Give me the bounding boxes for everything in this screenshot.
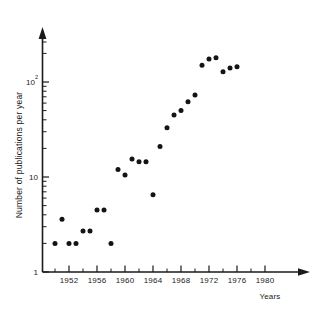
data-point [207,56,212,61]
x-tick-label-1980: 1980 [256,276,275,285]
x-tick-label-1968: 1968 [172,276,191,285]
data-point [67,241,72,246]
x-tick-label-1960: 1960 [116,276,135,285]
data-point [53,241,58,246]
data-point [200,63,205,68]
x-tick-label-1952: 1952 [60,276,79,285]
data-point [158,144,163,149]
data-point [235,64,240,69]
data-point [116,167,121,172]
x-tick-label-1956: 1956 [88,276,107,285]
data-point [123,172,128,177]
data-point [228,66,233,71]
data-point [137,159,142,164]
data-point [221,69,226,74]
y-tick-label-1: 1 [34,268,39,277]
data-point [186,99,191,104]
data-point [193,92,198,97]
x-tick-label-1972: 1972 [200,276,219,285]
y-axis-title: Number of publications per year [14,92,24,219]
data-point [109,241,114,246]
data-point [102,207,107,212]
y-tick-label-10: 10 [29,173,38,182]
data-point [60,217,65,222]
x-tick-label-1976: 1976 [228,276,247,285]
data-point [130,156,135,161]
data-point [144,159,149,164]
data-point [88,229,93,234]
chart-background [0,0,319,319]
data-point [81,229,86,234]
publications-per-year-chart: 1 10 102 Number of publications per year [0,0,319,319]
data-point [165,125,170,130]
data-point [95,207,100,212]
data-point [151,192,156,197]
x-axis-title: Years [259,292,280,301]
data-point [74,241,79,246]
y-tick-label-100-exponent: 2 [35,74,38,80]
data-point [214,55,219,60]
data-point [179,108,184,113]
data-point [172,112,177,117]
x-tick-label-1964: 1964 [144,276,163,285]
chart-svg: 1 10 102 Number of publications per year [0,0,319,319]
